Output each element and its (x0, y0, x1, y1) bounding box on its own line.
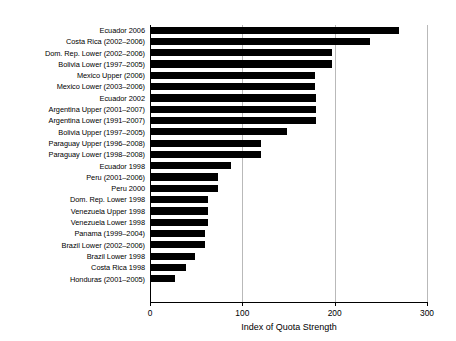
bar-row (150, 172, 427, 183)
x-axis-title: Index of Quota Strength (150, 322, 428, 332)
x-tick-label: 0 (148, 308, 153, 318)
gridline (427, 25, 428, 302)
bar-row (150, 36, 427, 47)
bar (150, 241, 205, 248)
bar-row (150, 240, 427, 251)
category-label: Ecuador 1998 (0, 161, 148, 172)
bar-row (150, 161, 427, 172)
bar (150, 60, 332, 67)
category-label: Panama (1999–2004) (0, 228, 148, 239)
bar (150, 83, 315, 90)
category-label: Peru 2000 (0, 183, 148, 194)
bar-row (150, 262, 427, 273)
category-label: Peru (2001–2006) (0, 172, 148, 183)
x-tick-mark (150, 302, 151, 306)
bar-row (150, 183, 427, 194)
category-label: Bolivia Upper (1997–2005) (0, 127, 148, 138)
bar-series (150, 25, 427, 302)
category-label: Argentina Lower (1991–2007) (0, 115, 148, 126)
category-label: Ecuador 2006 (0, 25, 148, 36)
bar-row (150, 70, 427, 81)
bar-row (150, 194, 427, 205)
category-label: Mexico Lower (2003–2006) (0, 81, 148, 92)
bar (150, 185, 218, 192)
bar (150, 72, 315, 79)
category-label: Bolivia Lower (1997–2005) (0, 59, 148, 70)
bar (150, 117, 316, 124)
category-label: Mexico Upper (2006) (0, 70, 148, 81)
plot-area (150, 25, 427, 302)
bar (150, 219, 208, 226)
x-tick-mark (335, 302, 336, 306)
bar (150, 207, 208, 214)
bar-row (150, 217, 427, 228)
bar-row (150, 138, 427, 149)
category-label: Paraguay Lower (1998–2008) (0, 149, 148, 160)
x-tick-mark (242, 302, 243, 306)
bar (150, 38, 370, 45)
bar (150, 253, 195, 260)
category-label: Dom. Rep. Lower (2002–2006) (0, 48, 148, 59)
category-label: Paraguay Upper (1996–2008) (0, 138, 148, 149)
x-tick-label: 300 (420, 308, 434, 318)
bar-row (150, 93, 427, 104)
bar-row (150, 59, 427, 70)
bar (150, 128, 287, 135)
bar-row (150, 206, 427, 217)
x-axis-line (150, 302, 428, 303)
x-tick-label: 100 (235, 308, 249, 318)
bar-row (150, 127, 427, 138)
category-label: Ecuador 2002 (0, 93, 148, 104)
bar (150, 264, 186, 271)
x-tick-label: 200 (328, 308, 342, 318)
category-label: Venezuela Lower 1998 (0, 217, 148, 228)
category-label: Brazil Lower 1998 (0, 251, 148, 262)
bar-row (150, 115, 427, 126)
bar-row (150, 81, 427, 92)
category-label: Costa Rica 1998 (0, 262, 148, 273)
category-label: Costa Rica (2002–2006) (0, 36, 148, 47)
bar (150, 275, 175, 282)
bar (150, 106, 316, 113)
bar-row (150, 274, 427, 285)
bar-row (150, 228, 427, 239)
bar (150, 196, 208, 203)
bar-row (150, 251, 427, 262)
category-label: Honduras (2001–2005) (0, 274, 148, 285)
bar-row (150, 149, 427, 160)
bar-row (150, 48, 427, 59)
category-label: Argentina Upper (2001–2007) (0, 104, 148, 115)
bar (150, 49, 332, 56)
category-label: Brazil Lower (2002–2006) (0, 240, 148, 251)
bar (150, 140, 261, 147)
bar (150, 151, 261, 158)
bar-row (150, 25, 427, 36)
bar (150, 173, 218, 180)
bar (150, 230, 205, 237)
category-label: Venezuela Upper 1998 (0, 206, 148, 217)
bar-row (150, 104, 427, 115)
category-label: Dom. Rep. Lower 1998 (0, 194, 148, 205)
x-tick-mark (427, 302, 428, 306)
bar (150, 94, 316, 101)
horizontal-bar-chart: Ecuador 2006Costa Rica (2002–2006)Dom. R… (0, 0, 456, 341)
bar (150, 27, 399, 34)
bar (150, 162, 231, 169)
category-label-column: Ecuador 2006Costa Rica (2002–2006)Dom. R… (0, 25, 148, 285)
